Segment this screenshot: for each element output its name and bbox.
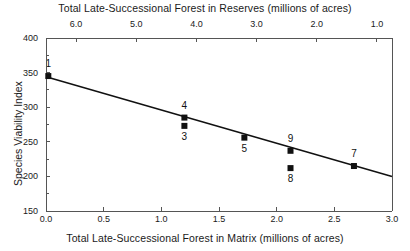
- data-marker-7: [351, 163, 357, 169]
- data-marker-3: [181, 123, 187, 129]
- data-marker-1: [45, 73, 51, 79]
- chart-figure: Total Late-Successional Forest in Reserv…: [0, 0, 410, 251]
- ticks-group: [46, 38, 392, 211]
- data-marker-4: [181, 115, 187, 121]
- trendline: [46, 77, 392, 177]
- trendline-path: [46, 77, 392, 177]
- axes-group: [46, 38, 392, 211]
- data-marker-9: [288, 148, 294, 154]
- data-marker-8: [288, 165, 294, 171]
- plot-canvas: [0, 0, 410, 251]
- data-marker-5: [241, 135, 247, 141]
